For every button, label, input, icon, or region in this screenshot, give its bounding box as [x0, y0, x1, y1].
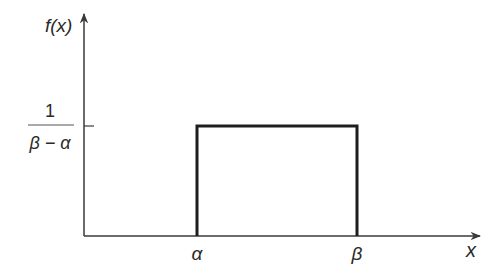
x-axis-label: x — [465, 239, 477, 261]
density-curve — [197, 126, 357, 236]
uniform-density-plot: f(x) 1 β − α α β x — [0, 0, 501, 270]
y-tick-numerator: 1 — [45, 101, 55, 121]
x-tick-beta: β — [351, 243, 363, 264]
y-tick-denominator: β − α — [28, 133, 71, 153]
y-axis-label: f(x) — [45, 15, 72, 36]
x-tick-alpha: α — [192, 243, 204, 264]
